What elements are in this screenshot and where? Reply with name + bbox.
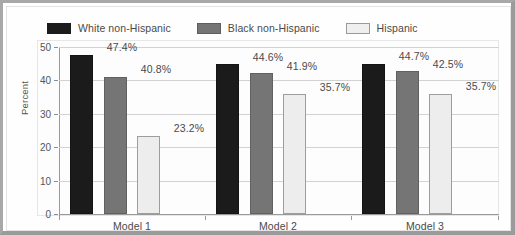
bar-model1-white-non-hispanic[interactable] — [70, 55, 93, 214]
bar-value-label-model3-white-non-hispanic: 44.7% — [399, 50, 429, 62]
y-tick-label: 0 — [45, 209, 51, 220]
x-axis-baseline — [59, 214, 499, 215]
y-tick-label: 50 — [40, 42, 51, 53]
legend-swatch-icon-hispanic — [346, 23, 370, 34]
y-tick-mark — [54, 147, 58, 148]
bar-model3-white-non-hispanic[interactable] — [362, 64, 385, 214]
y-tick-mark — [54, 80, 58, 81]
chart-legend: White non-Hispanic Black non-Hispanic Hi… — [47, 20, 444, 36]
figure-outer-frame: White non-Hispanic Black non-Hispanic Hi… — [0, 0, 515, 235]
bar-value-label-model1-white-non-hispanic: 47.4% — [107, 41, 137, 53]
x-tick-mark-right — [498, 216, 499, 220]
y-tick-mark — [54, 47, 58, 48]
bar-value-label-model3-black-non-hispanic: 42.5% — [433, 58, 463, 70]
legend-swatch-icon-black-non-hispanic — [197, 23, 221, 34]
y-tick-label: 40 — [40, 75, 51, 86]
bar-model2-black-non-hispanic[interactable] — [250, 73, 273, 214]
y-axis-title: Percent — [19, 103, 30, 115]
legend-label-hispanic: Hispanic — [377, 22, 418, 34]
legend-item-white-non-hispanic[interactable]: White non-Hispanic — [47, 22, 171, 34]
bar-model1-black-non-hispanic[interactable] — [104, 77, 127, 214]
x-tick-mark-left — [59, 216, 60, 220]
plot-area — [59, 47, 499, 215]
x-tick-mark-1 — [205, 216, 206, 220]
legend-item-hispanic[interactable]: Hispanic — [346, 22, 418, 34]
x-axis-label-model-2: Model 2 — [259, 220, 297, 232]
legend-item-black-non-hispanic[interactable]: Black non-Hispanic — [197, 22, 320, 34]
figure-inner-panel: White non-Hispanic Black non-Hispanic Hi… — [6, 6, 511, 231]
legend-label-black-non-hispanic: Black non-Hispanic — [228, 22, 320, 34]
bar-value-label-model1-black-non-hispanic: 40.8% — [141, 63, 171, 75]
y-tick-label: 20 — [40, 142, 51, 153]
bar-model2-hispanic[interactable] — [283, 94, 306, 214]
bar-model2-white-non-hispanic[interactable] — [216, 64, 239, 214]
y-tick-label: 30 — [40, 108, 51, 119]
y-tick-mark — [54, 181, 58, 182]
bar-value-label-model2-white-non-hispanic: 44.6% — [253, 51, 283, 63]
bar-model3-hispanic[interactable] — [429, 94, 452, 214]
bar-model3-black-non-hispanic[interactable] — [396, 71, 419, 214]
y-tick-mark — [54, 214, 58, 215]
bar-value-label-model2-black-non-hispanic: 41.9% — [287, 60, 317, 72]
bar-value-label-model3-hispanic: 35.7% — [466, 80, 496, 92]
bar-value-label-model1-hispanic: 23.2% — [174, 122, 204, 134]
x-axis-label-model-3: Model 3 — [406, 220, 444, 232]
x-axis-label-model-1: Model 1 — [113, 220, 151, 232]
bar-value-label-model2-hispanic: 35.7% — [320, 81, 350, 93]
y-tick-label: 10 — [40, 175, 51, 186]
legend-swatch-icon-white-non-hispanic — [47, 23, 71, 34]
x-tick-mark-2 — [351, 216, 352, 220]
y-tick-mark — [54, 114, 58, 115]
legend-label-white-non-hispanic: White non-Hispanic — [78, 22, 171, 34]
bar-model1-hispanic[interactable] — [137, 136, 160, 214]
